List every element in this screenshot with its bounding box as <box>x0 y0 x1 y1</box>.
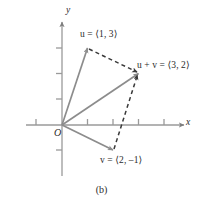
x-axis-label: x <box>186 118 190 128</box>
vector-addition-figure: u = ⟨1, 3⟩ u + v = ⟨3, 2⟩ v = ⟨2, –1⟩ O … <box>0 0 203 208</box>
dashed-u-to-sum <box>89 49 137 72</box>
vector-v <box>62 125 113 150</box>
y-axis-label: y <box>66 6 70 16</box>
figure-caption: (b) <box>0 184 203 195</box>
x-axis <box>26 119 184 125</box>
dashed-v-to-sum <box>114 75 137 149</box>
origin-label: O <box>54 128 61 138</box>
label-vector-u: u = ⟨1, 3⟩ <box>80 30 118 40</box>
vector-diagram-canvas <box>0 0 203 180</box>
label-vector-sum: u + v = ⟨3, 2⟩ <box>137 61 190 71</box>
label-vector-v: v = ⟨2, –1⟩ <box>100 156 142 166</box>
y-axis <box>56 22 62 176</box>
vector-u <box>62 48 88 125</box>
vector-u-plus-v <box>62 74 139 126</box>
